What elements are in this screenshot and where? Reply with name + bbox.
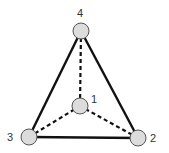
node-1	[72, 98, 88, 114]
node-label-2: 2	[150, 132, 156, 144]
node-label-3: 3	[7, 131, 13, 143]
node-label-4: 4	[77, 7, 83, 19]
edge-4-2	[81, 31, 138, 138]
node-label-1: 1	[91, 93, 97, 105]
diagram-canvas: 1 2 3 4	[0, 0, 169, 153]
node-4	[73, 23, 89, 39]
node-3	[21, 129, 37, 145]
edge-3-2	[29, 137, 138, 138]
tetrahedron-diagram: 1 2 3 4	[0, 0, 169, 153]
node-2	[130, 130, 146, 146]
edge-4-1	[80, 31, 81, 106]
